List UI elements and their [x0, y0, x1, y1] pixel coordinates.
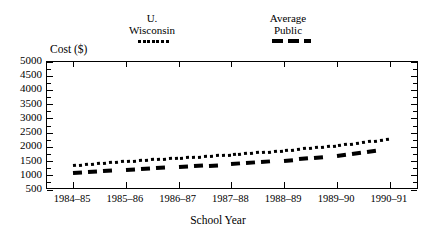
series-line-average-public — [231, 162, 240, 167]
series-line-average-public — [261, 160, 270, 165]
series-line-average-public — [126, 168, 135, 172]
y-axis-tick — [411, 104, 417, 105]
legend-dash — [304, 39, 311, 43]
y-axis-tick-label: 500 — [0, 183, 42, 194]
series-line-average-public — [73, 170, 82, 174]
x-axis-tick-top — [231, 62, 232, 67]
series-line-average-public — [141, 167, 150, 171]
series-line-average-public — [352, 151, 361, 156]
y-axis-tick-label: 1000 — [0, 169, 42, 180]
legend-item-average-public: Average Public — [248, 12, 328, 45]
series-line-u-wisconsin — [198, 155, 201, 158]
legend-dot — [156, 40, 159, 43]
y-axis-tick — [47, 190, 53, 191]
y-axis-tick — [47, 133, 53, 134]
y-axis-minor-tick — [47, 182, 51, 183]
series-line-u-wisconsin — [115, 161, 118, 164]
series-line-u-wisconsin — [97, 162, 100, 165]
series-line-u-wisconsin — [91, 163, 94, 166]
series-line-u-wisconsin — [356, 142, 359, 145]
y-axis-tick — [47, 76, 53, 77]
y-axis-tick-label: 5000 — [0, 55, 42, 66]
series-line-u-wisconsin — [262, 151, 265, 154]
y-axis-minor-tick — [413, 69, 417, 70]
y-axis-minor-tick — [47, 69, 51, 70]
series-line-average-public — [337, 153, 346, 158]
x-axis-tick-label: 1990–91 — [359, 193, 419, 205]
y-axis-tick — [47, 161, 53, 162]
y-axis-tick — [411, 76, 417, 77]
x-axis-tick-top — [337, 62, 338, 67]
x-axis-tick — [390, 182, 391, 188]
x-axis-tick-label: 1987–88 — [200, 193, 260, 205]
series-line-u-wisconsin — [291, 148, 294, 151]
series-line-average-public — [284, 158, 293, 163]
y-axis-tick-label: 3500 — [0, 98, 42, 109]
series-line-average-public — [314, 155, 323, 160]
legend-dash — [288, 39, 299, 43]
series-line-u-wisconsin — [268, 150, 271, 153]
x-axis-tick-top — [284, 62, 285, 67]
legend-label-u-wisconsin-line2: Wisconsin — [112, 24, 192, 36]
series-line-u-wisconsin — [280, 149, 283, 152]
series-line-u-wisconsin — [385, 138, 388, 141]
series-line-u-wisconsin — [186, 156, 189, 159]
x-axis-tick-label: 1988–89 — [253, 193, 313, 205]
legend-label-u-wisconsin-line1: U. — [112, 12, 192, 24]
y-axis-tick-label: 1500 — [0, 155, 42, 166]
series-line-u-wisconsin — [350, 142, 353, 145]
legend-dot — [161, 40, 164, 43]
series-line-u-wisconsin — [297, 148, 300, 151]
series-line-u-wisconsin — [309, 147, 312, 150]
y-axis-minor-tick — [413, 126, 417, 127]
series-line-average-public — [193, 164, 202, 168]
chart-figure: U. Wisconsin Average Public Cost ($) 500… — [0, 0, 436, 235]
x-axis-title: School Year — [0, 214, 436, 226]
y-axis-tick — [47, 90, 53, 91]
legend-item-u-wisconsin: U. Wisconsin — [112, 12, 192, 45]
y-axis-tick — [411, 147, 417, 148]
series-line-u-wisconsin — [109, 161, 112, 164]
legend-swatch-dotted — [112, 38, 192, 45]
series-line-u-wisconsin — [204, 155, 207, 158]
series-line-u-wisconsin — [145, 159, 148, 162]
series-line-u-wisconsin — [169, 157, 172, 160]
y-axis-tick — [47, 118, 53, 119]
series-line-average-public — [88, 170, 97, 174]
series-line-u-wisconsin — [79, 164, 82, 167]
series-line-u-wisconsin — [163, 157, 166, 160]
x-axis-tick — [126, 182, 127, 188]
legend-label-average-public-line2: Public — [248, 24, 328, 36]
series-line-u-wisconsin — [73, 164, 76, 167]
series-line-u-wisconsin — [228, 154, 231, 157]
series-line-u-wisconsin — [216, 154, 219, 157]
series-line-u-wisconsin — [121, 160, 124, 163]
x-axis-tick-labels: 1984–851985–861986–871987–881988–891989–… — [46, 193, 418, 209]
y-axis-tick — [47, 175, 53, 176]
x-axis-tick-top — [179, 62, 180, 67]
series-line-u-wisconsin — [151, 158, 154, 161]
series-line-u-wisconsin — [321, 145, 324, 148]
y-axis-minor-tick — [413, 83, 417, 84]
y-axis-minor-tick — [47, 126, 51, 127]
y-axis-minor-tick — [47, 140, 51, 141]
y-axis-tick — [411, 190, 417, 191]
y-axis-minor-tick — [413, 111, 417, 112]
series-line-u-wisconsin — [315, 146, 318, 149]
x-axis-tick — [231, 182, 232, 188]
y-axis-minor-tick — [413, 140, 417, 141]
x-axis-tick-top — [73, 62, 74, 67]
y-axis-minor-tick — [47, 168, 51, 169]
y-axis-tick — [411, 62, 417, 63]
x-axis-tick — [179, 182, 180, 188]
y-axis-tick-label: 4000 — [0, 83, 42, 94]
series-line-u-wisconsin — [192, 156, 195, 159]
series-line-u-wisconsin — [139, 159, 142, 162]
series-line-u-wisconsin — [232, 153, 235, 156]
legend-label-average-public-line1: Average — [248, 12, 328, 24]
y-axis-tick — [47, 104, 53, 105]
x-axis-tick-label: 1985–86 — [95, 193, 155, 205]
series-line-u-wisconsin — [333, 144, 336, 147]
y-axis-minor-tick — [47, 83, 51, 84]
series-line-u-wisconsin — [285, 149, 288, 152]
